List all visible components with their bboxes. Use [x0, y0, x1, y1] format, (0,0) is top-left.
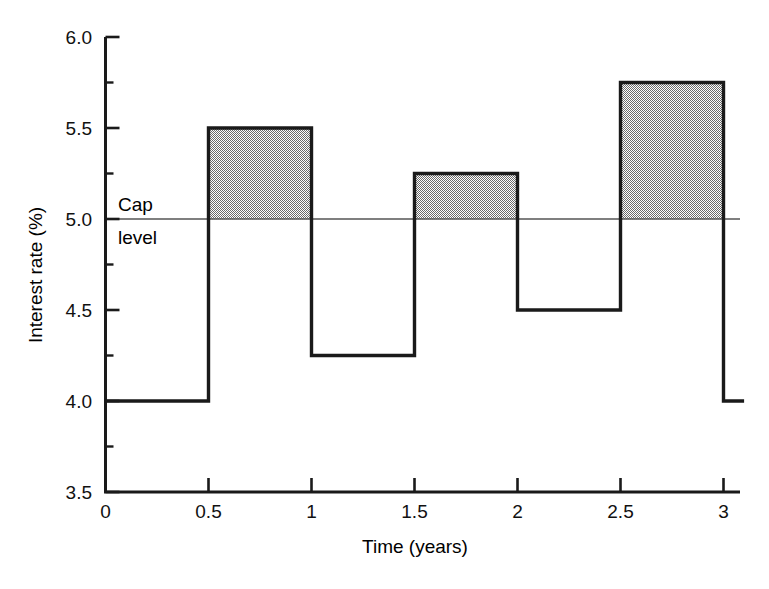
x-tick-group [106, 478, 724, 492]
chart-figure: 3.54.04.55.05.56.0 00.511.522.53 Interes… [0, 0, 769, 589]
y-tick-label: 6.0 [20, 28, 92, 47]
x-tick-label: 2 [512, 502, 523, 521]
x-tick-label: 2.5 [607, 502, 633, 521]
shaded-excess-region [621, 83, 724, 220]
x-tick-label: 3 [718, 502, 729, 521]
shaded-region-group [209, 83, 724, 220]
y-axis-title: Interest rate (%) [25, 145, 47, 405]
cap-level-annotation-line-2: level [118, 228, 157, 247]
cap-level-annotation-line-1: Cap [118, 195, 153, 214]
shaded-excess-region [415, 174, 518, 220]
x-axis-title: Time (years) [105, 536, 725, 558]
x-tick-label: 0.5 [195, 502, 221, 521]
x-tick-label: 1.5 [401, 502, 427, 521]
y-tick-label: 5.5 [20, 119, 92, 138]
chart-plot-area [0, 0, 769, 589]
x-tick-label: 0 [100, 502, 111, 521]
x-tick-label: 1 [306, 502, 317, 521]
shaded-excess-region [209, 128, 312, 219]
y-tick-group [106, 37, 120, 492]
y-tick-label: 3.5 [20, 483, 92, 502]
